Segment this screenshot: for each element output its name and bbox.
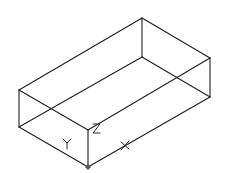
edge-top-back-right xyxy=(142,18,210,58)
ucs-origin-marker-icon xyxy=(85,164,91,170)
edge-bottom-right-front xyxy=(88,97,210,167)
edge-top-right-front xyxy=(88,58,210,130)
edge-top-back-left xyxy=(19,18,142,90)
edge-bottom-back-right xyxy=(142,57,210,97)
edge-bottom-left-front xyxy=(19,127,88,167)
edge-bottom-back-left xyxy=(19,57,142,127)
axis-label-x xyxy=(121,141,129,150)
edge-top-left-front xyxy=(19,90,88,130)
drawing-viewport[interactable] xyxy=(0,0,229,173)
axis-label-y xyxy=(63,139,71,149)
wireframe-box-drawing xyxy=(0,0,229,173)
